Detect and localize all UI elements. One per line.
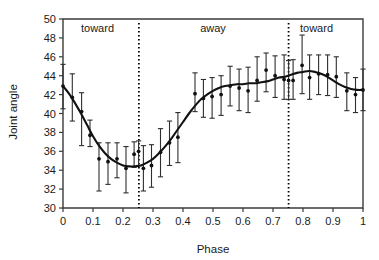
y-tick-label: 40 bbox=[44, 108, 56, 120]
y-tick-label: 36 bbox=[44, 145, 56, 157]
x-tick-label: 0.3 bbox=[145, 215, 160, 227]
data-point bbox=[255, 79, 259, 83]
data-point bbox=[202, 96, 206, 100]
data-point bbox=[106, 160, 110, 164]
data-point bbox=[115, 157, 119, 161]
y-tick-label: 42 bbox=[44, 89, 56, 101]
data-point bbox=[80, 110, 84, 114]
x-tick-label: 0.9 bbox=[325, 215, 340, 227]
x-tick-label: 0.7 bbox=[265, 215, 280, 227]
y-tick-label: 30 bbox=[44, 202, 56, 214]
data-point bbox=[273, 74, 277, 78]
data-point bbox=[291, 79, 295, 83]
data-point bbox=[168, 141, 172, 145]
phase-divider-lines bbox=[139, 23, 289, 208]
data-point bbox=[282, 78, 286, 82]
data-point bbox=[228, 84, 232, 88]
data-point bbox=[159, 150, 163, 154]
x-tick-label: 1 bbox=[360, 215, 366, 227]
data-point bbox=[97, 157, 101, 161]
chart-figure: 00.10.20.30.40.50.60.70.80.91 3032343638… bbox=[0, 0, 379, 260]
y-tick-labels: 3032343638404244464850 bbox=[44, 13, 56, 214]
y-tick-label: 32 bbox=[44, 183, 56, 195]
region-label: toward bbox=[81, 22, 114, 34]
data-point bbox=[61, 84, 65, 88]
x-tick-label: 0.5 bbox=[205, 215, 220, 227]
data-point bbox=[287, 79, 291, 83]
data-point bbox=[176, 135, 180, 139]
y-tick-label: 46 bbox=[44, 51, 56, 63]
data-point bbox=[219, 93, 223, 97]
data-point bbox=[132, 152, 136, 156]
data-point bbox=[317, 72, 321, 76]
data-point bbox=[308, 76, 312, 80]
data-point bbox=[210, 95, 214, 99]
data-point bbox=[137, 149, 141, 153]
region-label: toward bbox=[300, 22, 333, 34]
joint-angle-phase-chart: 00.10.20.30.40.50.60.70.80.91 3032343638… bbox=[0, 0, 379, 260]
region-label: away bbox=[200, 22, 226, 34]
region-annotations: towardawaytoward bbox=[81, 22, 333, 34]
error-bars bbox=[60, 35, 365, 193]
data-point bbox=[246, 89, 250, 93]
data-point bbox=[264, 68, 268, 72]
x-tick-labels: 00.10.20.30.40.50.60.70.80.91 bbox=[60, 215, 366, 227]
data-point bbox=[124, 166, 128, 170]
data-point bbox=[237, 86, 241, 90]
data-point bbox=[142, 166, 146, 170]
y-axis-title: Joint angle bbox=[7, 84, 19, 140]
y-tick-label: 38 bbox=[44, 126, 56, 138]
y-tick-label: 34 bbox=[44, 164, 56, 176]
data-point bbox=[345, 89, 349, 93]
x-tick-label: 0.2 bbox=[115, 215, 130, 227]
x-axis-title: Phase bbox=[197, 243, 230, 255]
y-tick-label: 48 bbox=[44, 32, 56, 44]
x-tick-label: 0 bbox=[60, 215, 66, 227]
x-tick-label: 0.8 bbox=[295, 215, 310, 227]
x-tick-label: 0.4 bbox=[175, 215, 190, 227]
data-point bbox=[326, 73, 330, 77]
error-bar bbox=[264, 53, 269, 92]
x-tick-label: 0.1 bbox=[85, 215, 100, 227]
data-point bbox=[70, 96, 74, 100]
x-tick-label: 0.6 bbox=[235, 215, 250, 227]
data-point bbox=[193, 92, 197, 96]
data-point bbox=[334, 75, 338, 79]
y-tick-label: 50 bbox=[44, 13, 56, 25]
data-point bbox=[150, 164, 154, 168]
error-bar bbox=[96, 143, 101, 191]
data-point bbox=[361, 88, 365, 92]
data-point bbox=[300, 63, 304, 67]
y-tick-label: 44 bbox=[44, 70, 56, 82]
data-point bbox=[354, 93, 358, 97]
data-point bbox=[88, 133, 92, 137]
